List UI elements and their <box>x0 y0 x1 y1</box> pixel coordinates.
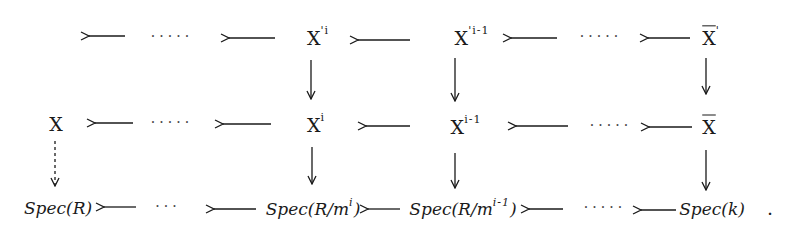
node-base: X <box>455 27 469 49</box>
node-x-prime-i-minus-1: X'i-1 <box>455 28 490 47</box>
node-spec-r-mod-m-i: Spec(R/mi) <box>266 200 361 219</box>
node-label: Spec(k) <box>679 199 745 219</box>
node-base: X <box>451 116 465 138</box>
ellipsis-top-right: ····· <box>580 28 622 44</box>
node-superscript: 'i-1 <box>468 24 489 37</box>
node-label: Spec(R/m <box>266 199 349 219</box>
node-base: X <box>702 27 716 49</box>
node-close-paren: ) <box>510 199 517 219</box>
node-x-prime-i: X'i <box>307 28 329 47</box>
ellipsis-mid-right: ····· <box>590 117 632 133</box>
node-superscript: i-1 <box>464 113 481 126</box>
node-base: X <box>49 113 63 135</box>
node-base: X <box>307 114 321 136</box>
ellipsis-bot-left: ··· <box>155 198 180 214</box>
node-x-bar-prime: X' <box>702 28 720 47</box>
node-x-i: Xi <box>307 115 325 134</box>
node-superscript: i <box>349 196 354 209</box>
node-x: X <box>49 115 63 134</box>
node-base: X <box>307 27 321 49</box>
node-superscript: i-1 <box>493 196 510 209</box>
node-base: X <box>702 116 716 138</box>
node-superscript: i <box>321 111 326 124</box>
node-label: Spec(R/m <box>409 199 492 219</box>
arrows-layer <box>0 0 803 232</box>
node-x-bar: X <box>702 118 716 137</box>
node-spec-r: Spec(R) <box>24 200 92 217</box>
ellipsis-mid-left: ····· <box>151 114 193 130</box>
node-spec-r-mod-m-i-minus-1: Spec(R/mi-1) <box>409 200 516 219</box>
ellipsis-bot-right: ····· <box>584 199 626 215</box>
node-x-i-minus-1: Xi-1 <box>451 117 482 136</box>
trailing-period: . <box>767 199 773 218</box>
commutative-diagram: X'i X'i-1 X' ····· ····· X Xi Xi-1 X ···… <box>0 0 803 232</box>
node-superscript: 'i <box>320 24 329 37</box>
node-superscript: ' <box>716 24 720 37</box>
node-spec-k: Spec(k) <box>679 201 745 218</box>
node-label: Spec(R) <box>24 198 92 218</box>
ellipsis-top-left: ····· <box>151 28 193 44</box>
node-close-paren: ) <box>354 199 361 219</box>
